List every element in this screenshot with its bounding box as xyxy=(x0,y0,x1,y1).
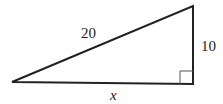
right-triangle-diagram: 20 10 x xyxy=(0,0,223,104)
horizontal-leg-label: x xyxy=(109,87,117,103)
right-angle-marker xyxy=(180,71,193,84)
triangle-shape xyxy=(12,6,193,84)
hypotenuse-label: 20 xyxy=(81,25,96,41)
vertical-leg-label: 10 xyxy=(201,38,216,54)
